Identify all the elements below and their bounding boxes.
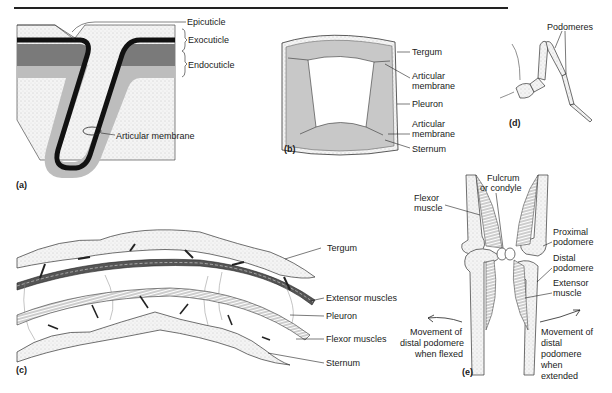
label-flexed-1: Movement of (410, 327, 462, 337)
label-proximal-1: Proximal (553, 227, 588, 237)
label-pleuron-c: Pleuron (326, 311, 357, 321)
label-extended-5: extended (541, 371, 578, 381)
panel-b-artwork (282, 35, 410, 155)
label-proximal-2: podomere (553, 237, 594, 247)
panel-tag-a: (a) (16, 180, 27, 190)
label-flexor-muscle-2: muscle (414, 203, 443, 213)
label-tergum-c: Tergum (327, 243, 357, 253)
label-flexed-2: distal podomere (400, 338, 464, 348)
label-extended-2: distal (541, 338, 562, 348)
label-extensor-2: muscle (553, 288, 582, 298)
label-flexor-muscle-1: Flexor (414, 193, 439, 203)
label-flexor-muscles: Flexor muscles (326, 334, 387, 344)
label-endocuticle: Endocuticle (188, 60, 235, 70)
panel-a-artwork (17, 22, 187, 178)
label-articular-b-3: Articular (412, 119, 445, 129)
label-extended-4: when (541, 360, 563, 370)
label-distal-2: podomere (553, 263, 594, 273)
label-podomeres: Podomeres (547, 22, 593, 32)
panel-tag-d: (d) (509, 118, 521, 128)
label-tergum-b: Tergum (412, 47, 442, 57)
label-extended-3: podomere (541, 349, 582, 359)
label-fulcrum-2: or condyle (480, 183, 522, 193)
label-distal-1: Distal (553, 253, 576, 263)
label-flexed-3: when flexed (415, 349, 463, 359)
panel-c-artwork (17, 230, 324, 365)
label-exocuticle: Exocuticle (188, 35, 229, 45)
label-sternum-b: Sternum (412, 144, 446, 154)
label-articular-b-2: membrane (412, 81, 455, 91)
figure-artwork (0, 0, 612, 393)
label-extensor-muscles: Extensor muscles (326, 293, 397, 303)
label-articular-b-1: Articular (412, 71, 445, 81)
label-pleuron-b: Pleuron (412, 99, 443, 109)
label-sternum-c: Sternum (326, 358, 360, 368)
label-articular-membrane: Articular membrane (116, 131, 195, 141)
panel-d-artwork (500, 31, 592, 122)
label-extensor-1: Extensor (553, 278, 589, 288)
panel-tag-e: (e) (462, 367, 473, 377)
label-epicuticle: Epicuticle (187, 17, 226, 27)
label-fulcrum-1: Fulcrum (487, 173, 520, 183)
label-extended-1: Movement of (541, 327, 593, 337)
panel-tag-b: (b) (284, 144, 296, 154)
panel-tag-c: (c) (16, 365, 27, 375)
label-articular-b-4: membrane (412, 129, 455, 139)
